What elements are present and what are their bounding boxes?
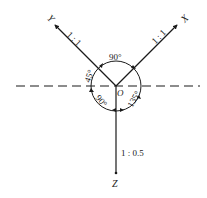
x-axis-label: X [178,12,191,25]
axonometric-diagram: Y X Z 1 : 1 1 : 1 1 : 0.5 90° 45° 90° 13… [0,0,207,198]
angle-label-y-horizontal: 45° [82,68,96,84]
z-axis-scale-label: 1 : 0.5 [121,148,144,158]
z-axis-end-dot [115,172,118,175]
angle-label-horizontal-z: 90° [94,93,110,109]
x-axis [116,25,177,86]
arc-arrow-icon [120,108,124,112]
angle-label-x-y: 90° [109,52,122,62]
origin-label: O [117,88,124,98]
z-axis-label: Z [112,178,118,189]
y-axis-label: Y [45,12,58,25]
x-axis-scale-label: 1 : 1 [150,28,168,46]
y-axis-scale-label: 1 : 1 [65,30,83,48]
